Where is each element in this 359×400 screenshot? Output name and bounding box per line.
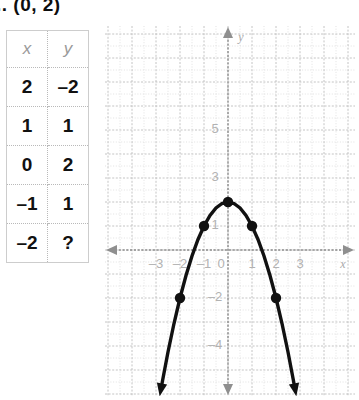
y-tick-label: 5 [211, 121, 218, 136]
cell-x: 1 [7, 107, 48, 146]
cell-x: 2 [7, 68, 48, 107]
plot-point [271, 293, 281, 303]
cell-x: –1 [7, 185, 48, 224]
x-axis-label: x [339, 257, 346, 271]
plot-point [247, 221, 257, 231]
x-tick-label: –3 [149, 256, 163, 271]
cell-y: –2 [48, 68, 89, 107]
y-tick-label: –4 [208, 337, 222, 352]
column-header-x: x [7, 31, 48, 68]
y-axis-arrow-down [223, 384, 233, 395]
cell-y: 2 [48, 146, 89, 185]
xy-value-table: x y 2 –2 1 1 0 2 –1 1 –2 ? [6, 30, 89, 263]
x-tick-label: 1 [248, 256, 255, 271]
plot-point [223, 197, 233, 207]
table-row: –1 1 [7, 185, 89, 224]
y-axis-label: y [237, 30, 244, 44]
cell-y: 1 [48, 107, 89, 146]
cell-x: –2 [7, 224, 48, 263]
plot-point [175, 293, 185, 303]
y-axis-arrow-up [223, 27, 233, 38]
x-tick-label: 0 [217, 256, 224, 271]
y-tick-label: 3 [211, 169, 218, 184]
table-row: 0 2 [7, 146, 89, 185]
answer-header-text: .. (0, 2) [0, 0, 116, 18]
grid-minor-lines [105, 26, 355, 396]
x-tick-label: –1 [197, 256, 211, 271]
cell-y-unknown: ? [48, 224, 89, 263]
curve-arrow-left [157, 383, 167, 396]
cell-x: 0 [7, 146, 48, 185]
axes [106, 27, 354, 395]
coordinate-graph: –3–2–10123531–2–4 x y [105, 26, 355, 396]
x-tick-label: –2 [173, 256, 187, 271]
table-header-row: x y [7, 31, 89, 68]
x-axis-arrow-right [343, 245, 354, 255]
table-row: –2 ? [7, 224, 89, 263]
grid-major-lines [105, 26, 355, 396]
column-header-y: y [48, 31, 89, 68]
cell-y: 1 [48, 185, 89, 224]
y-tick-label: 1 [211, 217, 218, 232]
y-tick-label: –2 [208, 289, 222, 304]
x-tick-label: 2 [272, 256, 279, 271]
table-row: 1 1 [7, 107, 89, 146]
table-row: 2 –2 [7, 68, 89, 107]
graph-svg: –3–2–10123531–2–4 x y [105, 26, 355, 396]
x-tick-label: 3 [296, 256, 303, 271]
plot-point [199, 221, 209, 231]
